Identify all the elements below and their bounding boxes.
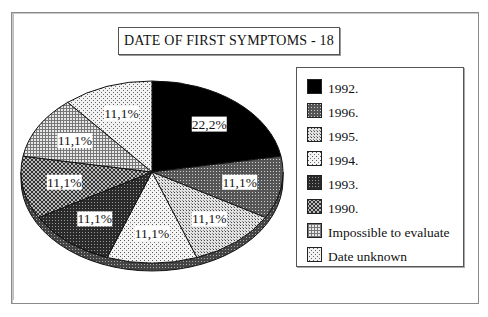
legend-swatch-1994	[307, 151, 322, 166]
legend-swatch-1993	[307, 175, 322, 190]
legend-item-1992: 1992.	[307, 74, 358, 94]
legend-item-impossible: Impossible to evaluate	[307, 218, 449, 238]
legend-swatch-date-unknown	[307, 247, 322, 262]
data-label: 11,1%	[135, 226, 169, 241]
legend-item-1993: 1993.	[307, 170, 358, 190]
data-label: 11,1%	[78, 211, 112, 226]
data-label: 22,2%	[192, 117, 227, 132]
data-label: 11,1%	[47, 175, 81, 190]
legend-item-1996: 1996.	[307, 98, 358, 118]
chart-legend: 1992. 1996. 1995. 1994. 1993. 1990. Impo…	[296, 67, 464, 267]
legend-swatch-impossible	[307, 223, 322, 238]
data-label: 11,1%	[58, 133, 92, 148]
legend-item-1995: 1995.	[307, 122, 358, 142]
legend-swatch-1995	[307, 127, 322, 142]
legend-item-1994: 1994.	[307, 146, 358, 166]
data-label: 11,1%	[192, 211, 226, 226]
data-label: 11,1%	[104, 106, 138, 121]
data-label: 11,1%	[223, 175, 257, 190]
legend-item-date-unknown: Date unknown	[307, 242, 407, 262]
legend-item-1990: 1990.	[307, 194, 358, 214]
legend-swatch-1996	[307, 103, 322, 118]
legend-swatch-1992	[307, 79, 322, 94]
legend-swatch-1990	[307, 199, 322, 214]
